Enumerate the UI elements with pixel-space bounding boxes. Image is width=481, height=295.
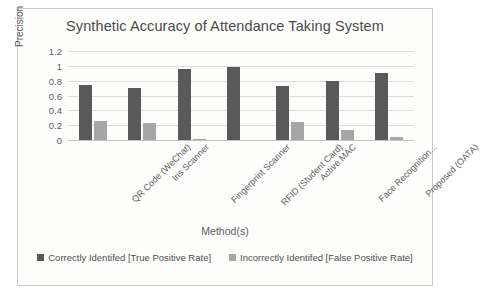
chart-legend: Correctly Identifed [True Positive Rate]… (18, 252, 432, 263)
bar-groups (68, 51, 414, 140)
y-axis-tick-label: 1 (22, 60, 62, 71)
y-axis-tick-label: 0.4 (22, 105, 62, 116)
bar-group (267, 51, 314, 140)
legend-item[interactable]: Incorrectly Identifed [False Positive Ra… (229, 252, 413, 263)
y-axis-tick-label: 1.2 (22, 46, 62, 57)
gridline (68, 140, 414, 141)
bar-group (168, 51, 215, 140)
legend-swatch-icon (229, 254, 236, 261)
bar-group (316, 51, 363, 140)
bar[interactable] (193, 139, 206, 140)
legend-label: Incorrectly Identifed [False Positive Ra… (240, 252, 413, 263)
bar[interactable] (326, 81, 339, 140)
bar[interactable] (178, 69, 191, 140)
bar-group (217, 51, 264, 140)
y-axis-tick-label: 0.6 (22, 90, 62, 101)
bar[interactable] (390, 137, 403, 140)
chart-container: Synthetic Accuracy of Attendance Taking … (17, 8, 433, 286)
x-axis-tick-labels: QR Code (WeChat)Iris ScannerFingerprint … (68, 142, 414, 222)
y-axis-title: Precision (14, 6, 25, 47)
legend-label: Correctly Identifed [True Positive Rate] (48, 252, 211, 263)
bar[interactable] (227, 67, 240, 140)
bar-group (119, 51, 166, 140)
bar[interactable] (143, 123, 156, 140)
bar[interactable] (79, 85, 92, 140)
bar[interactable] (128, 88, 141, 140)
y-axis-tick-label: 0 (22, 135, 62, 146)
bar[interactable] (375, 73, 388, 140)
y-axis-tick-label: 0.8 (22, 75, 62, 86)
y-axis-tick-label: 0.2 (22, 120, 62, 131)
bar[interactable] (276, 86, 289, 140)
bar[interactable] (94, 121, 107, 140)
chart-title: Synthetic Accuracy of Attendance Taking … (18, 18, 432, 34)
x-axis-title: Method(s) (18, 225, 432, 237)
legend-swatch-icon (37, 254, 44, 261)
legend-item[interactable]: Correctly Identifed [True Positive Rate] (37, 252, 211, 263)
plot-area: 00.20.40.60.811.2 (68, 51, 414, 140)
bar-group (366, 51, 413, 140)
bar-group (69, 51, 116, 140)
bar[interactable] (341, 130, 354, 140)
bar[interactable] (291, 122, 304, 140)
